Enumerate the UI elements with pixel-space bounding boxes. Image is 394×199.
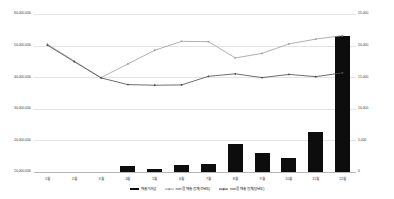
x-axis-line [34, 172, 356, 173]
y-axis-left-tick: 60,000,000 [14, 12, 31, 15]
line-marker [342, 72, 344, 74]
legend-item[interactable]: 매출기여금 [130, 186, 156, 192]
x-axis-tick: 8월 [222, 175, 249, 184]
line-marker [288, 74, 290, 76]
line-path [47, 36, 342, 78]
line-marker [208, 41, 210, 43]
x-axis-tick: 10월 [275, 175, 302, 184]
chart-legend: 매출기여금non몰 매출 합계(전년도)non몰 매출 합계(당년도) [0, 186, 394, 192]
line-marker [261, 77, 263, 79]
x-axis-tick: 3월 [88, 175, 115, 184]
line-marker [181, 84, 183, 86]
y-axis-left-tick: 40,000,000 [14, 76, 31, 79]
line-series-layer [34, 14, 356, 173]
legend-item[interactable]: non몰 매출 합계(전년도) [165, 186, 210, 192]
y-axis-left-tick: 10,000,000 [14, 170, 31, 173]
line-marker [100, 77, 102, 79]
x-axis-tick: 2월 [61, 175, 88, 184]
line-marker [261, 53, 263, 55]
y-axis-left-tick: 50,000,000 [14, 44, 31, 47]
x-axis-tick: 9월 [249, 175, 276, 184]
line-marker [234, 57, 236, 59]
y-axis-right-tick: 25,000 [358, 12, 368, 15]
y-axis-left: 60,000,00050,000,00040,000,00030,000,000… [0, 14, 31, 173]
line-marker [47, 44, 49, 46]
y-axis-right-tick: 10,000 [358, 107, 368, 110]
legend-line-swatch-icon [219, 187, 228, 191]
x-axis-tick: 6월 [168, 175, 195, 184]
line-marker [154, 49, 156, 51]
legend-bar-swatch-icon [130, 188, 139, 190]
line-marker [288, 43, 290, 45]
line-marker [315, 38, 317, 40]
combo-chart: 60,000,00050,000,00040,000,00030,000,000… [0, 0, 394, 199]
line-marker [234, 73, 236, 75]
x-axis-tick: 7월 [195, 175, 222, 184]
line-marker [154, 84, 156, 86]
y-axis-right-tick: 15,000 [358, 76, 368, 79]
line-marker [127, 84, 129, 86]
x-axis-labels: 1월2월3월4월5월6월7월8월9월10월11월12월 [34, 175, 356, 184]
x-axis-tick: 12월 [329, 175, 356, 184]
line-marker [73, 61, 75, 63]
line-marker [127, 63, 129, 65]
x-axis-tick: 11월 [302, 175, 329, 184]
legend-label: non몰 매출 합계(전년도) [176, 186, 210, 192]
legend-label: 매출기여금 [141, 186, 156, 192]
line-path [47, 45, 342, 85]
legend-item[interactable]: non몰 매출 합계(당년도) [219, 186, 264, 192]
y-axis-right-tick: 5,000 [358, 139, 367, 142]
line-marker [181, 40, 183, 42]
plot-area [34, 14, 356, 173]
line-marker [208, 75, 210, 77]
x-axis-tick: 4월 [114, 175, 141, 184]
legend-line-swatch-icon [165, 187, 174, 191]
x-axis-tick: 1월 [34, 175, 61, 184]
y-axis-right-tick: 20,000 [358, 44, 368, 47]
line-marker [342, 35, 344, 37]
line-marker [315, 76, 317, 78]
x-axis-tick: 5월 [141, 175, 168, 184]
y-axis-left-tick: 30,000,000 [14, 107, 31, 110]
y-axis-right: 25,00020,00015,00010,0005,0000 [358, 14, 392, 173]
y-axis-left-tick: 20,000,000 [14, 139, 31, 142]
y-axis-right-tick: 0 [358, 170, 360, 173]
legend-label: non몰 매출 합계(당년도) [230, 186, 264, 192]
